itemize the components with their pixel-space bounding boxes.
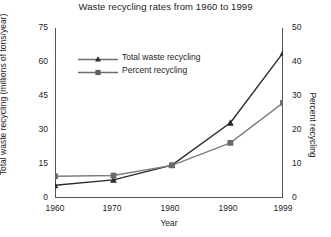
- y-axis-right-tick-label-30: 30: [292, 90, 301, 100]
- y-axis-left-title: Total waste recycling (millions of tons/…: [0, 0, 12, 213]
- x-axis-tick-label-1999: 1999: [266, 203, 300, 213]
- legend-entry-percent-recycling: Percent recycling: [78, 63, 258, 76]
- y-axis-right-tick-label-0: 0: [292, 192, 297, 202]
- legend-entry-total-waste-recycling: Total waste recycling: [78, 50, 258, 63]
- y-axis-left-tick-label-30: 30: [20, 124, 48, 134]
- y-axis-right-tick-label-10: 10: [292, 158, 301, 168]
- x-axis-tick-label-1980: 1980: [153, 203, 187, 213]
- chart-legend: Total waste recycling Percent recycling: [78, 50, 258, 76]
- y-axis-left-tick-label-60: 60: [20, 56, 48, 66]
- y-axis-left-tick-label-15: 15: [20, 158, 48, 168]
- chart-container: Waste recycling rates from 1960 to 1999 …: [0, 0, 331, 237]
- y-axis-right-tick-label-50: 50: [292, 22, 301, 32]
- data-point: [169, 162, 175, 168]
- legend-label-percent-recycling: Percent recycling: [118, 65, 187, 75]
- y-axis-right-tick-label-40: 40: [292, 56, 301, 66]
- legend-swatch-square-icon: [78, 64, 118, 75]
- y-axis-left-tick-label-0: 0: [20, 192, 48, 202]
- x-axis-title: Year: [55, 218, 283, 228]
- data-point: [55, 173, 58, 179]
- legend-label-total-waste-recycling: Total waste recycling: [118, 52, 200, 62]
- data-point: [280, 100, 283, 106]
- y-axis-left-tick-label-45: 45: [20, 90, 48, 100]
- y-axis-right-title: Percent recycling: [304, 30, 318, 220]
- y-axis-left-tick-label-75: 75: [20, 22, 48, 32]
- x-axis-tick-label-1990: 1990: [211, 203, 245, 213]
- y-axis-right-tick-label-20: 20: [292, 124, 301, 134]
- data-point: [111, 173, 117, 179]
- x-axis-tick-label-1960: 1960: [38, 203, 72, 213]
- chart-title: Waste recycling rates from 1960 to 1999: [0, 1, 331, 12]
- series-line-percent-recycling: [55, 103, 283, 176]
- x-axis-tick-label-1970: 1970: [95, 203, 129, 213]
- legend-swatch-triangle-icon: [78, 51, 118, 62]
- data-point: [227, 140, 233, 146]
